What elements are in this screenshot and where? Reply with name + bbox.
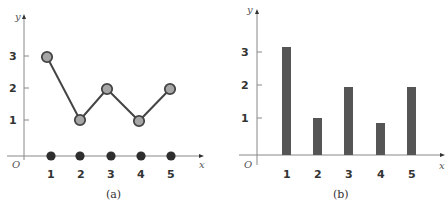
panel-a-y-axis-arrow-icon (22, 14, 26, 19)
panel-a-y-label: y (14, 11, 21, 22)
panel-b-y-tick-label: 1 (241, 112, 249, 125)
panel-a-y-tick-label: 2 (9, 82, 17, 95)
panel-a-axis-dot (166, 151, 175, 160)
figure: y x O 3 2 1 1 2 3 4 5 (a) (0, 0, 446, 209)
panel-b-bar (282, 47, 291, 155)
panel-a-data-point (42, 52, 52, 62)
panel-b-x-axis-arrow-icon (440, 153, 445, 157)
panel-b-bar (376, 123, 385, 155)
panel-a-x-axis-arrow-icon (199, 154, 204, 158)
panel-a-x-tick-label: 1 (47, 168, 55, 181)
panel-a-axis-dot (136, 151, 145, 160)
panel-a-caption: (a) (106, 188, 121, 201)
panel-a-x-tick-label: 3 (107, 168, 115, 181)
panel-b-bar (313, 118, 322, 155)
panel-a-data-point (75, 115, 85, 125)
panel-a-x-label: x (199, 159, 205, 170)
panel-a-x-tick-label: 4 (137, 168, 145, 181)
panel-a-data-point (134, 116, 144, 126)
panel-b-caption: (b) (333, 188, 349, 201)
panel-b-x-label: x (439, 160, 445, 171)
panel-a-axis-dot (46, 151, 55, 160)
panel-a-x-tick-label: 2 (77, 168, 85, 181)
panel-a-data-point (165, 84, 175, 94)
panel-b-x-tick-label: 2 (314, 168, 322, 181)
panel-b-y-label: y (246, 4, 253, 15)
panel-b-x-tick-label: 3 (345, 168, 353, 181)
panel-a-x-tick-label: 5 (167, 168, 175, 181)
panel-b-x-tick-label: 5 (408, 168, 416, 181)
panel-b-y-tick-label: 2 (241, 79, 249, 92)
panel-b-y-tick-label: 3 (241, 46, 249, 59)
panel-b-bar (407, 87, 416, 155)
panel-b-y-axis-arrow-icon (255, 9, 259, 14)
panel-a-y-tick-label: 3 (9, 50, 17, 63)
panel-b-x-tick-label: 1 (283, 168, 291, 181)
panel-a-axis-dot (106, 151, 115, 160)
panel-b-x-tick-label: 4 (377, 168, 385, 181)
panel-b-bar (344, 87, 353, 155)
panel-b-bar-chart: y x O 3 2 1 1 2 3 4 5 (b) (239, 4, 445, 201)
panel-b-origin-label: O (244, 159, 252, 170)
panel-a-data-point (102, 84, 112, 94)
panel-a-line-chart: y x O 3 2 1 1 2 3 4 5 (a) (7, 11, 205, 201)
panel-a-origin-label: O (12, 159, 20, 170)
panel-a-axis-dot (75, 151, 84, 160)
panel-a-y-tick-label: 1 (9, 114, 17, 127)
